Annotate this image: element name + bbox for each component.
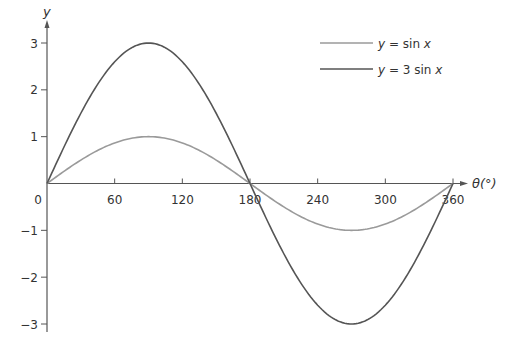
x-axis-title: θ(°) [472,176,497,191]
x-axis-arrow-icon [460,181,468,186]
y-axis-arrow-icon [45,20,50,28]
x-tick-label: 120 [171,193,194,207]
x-tick-label: 240 [306,193,329,207]
x-tick-label: 0 [34,193,42,207]
y-tick-label: 3 [30,37,38,51]
y-tick-label: 2 [30,83,38,97]
axes: 060120180240300360 321−1−2−3 y θ(°) [20,4,496,332]
sine-chart: 060120180240300360 321−1−2−3 y θ(°) y = … [0,0,516,347]
x-tick-label: 60 [107,193,122,207]
y-tick-label: −1 [20,224,38,238]
y-tick-label: −2 [20,271,38,285]
legend: y = sin xy = 3 sin x [320,37,443,77]
legend-item: y = 3 sin x [320,63,443,77]
legend-label: y = 3 sin x [377,63,443,77]
x-tick-label: 300 [374,193,397,207]
y-ticks: 321−1−2−3 [20,37,47,332]
legend-label: y = sin x [377,37,432,51]
y-tick-label: −3 [20,318,38,332]
y-tick-label: 1 [30,130,38,144]
y-axis-title: y [42,4,51,19]
legend-item: y = sin x [320,37,432,51]
